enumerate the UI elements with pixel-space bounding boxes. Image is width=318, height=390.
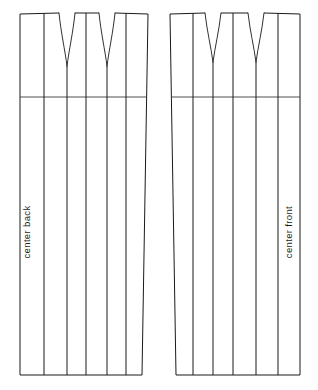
back-panel-seam-lines <box>44 13 126 375</box>
back-dart-2-left-leg <box>99 13 107 66</box>
front-top-segment-1 <box>170 13 205 14</box>
front-panel-group: center front <box>170 13 300 375</box>
front-dart-1-left-leg <box>205 13 213 62</box>
pattern-drawing-canvas: center back <box>0 0 318 390</box>
back-dart-1-left-leg <box>59 13 67 66</box>
front-panel-top-edge <box>170 13 300 14</box>
front-panel-darts <box>205 13 264 62</box>
back-top-segment-3 <box>115 13 148 14</box>
back-top-segment-1 <box>20 13 59 14</box>
front-dart-2-right-leg <box>256 13 264 62</box>
back-panel-top-edge <box>20 13 148 14</box>
back-dart-1-right-leg <box>67 13 75 66</box>
back-dart-2-right-leg <box>107 13 115 66</box>
front-dart-2-left-leg <box>248 13 256 62</box>
back-panel-darts <box>59 13 115 66</box>
center-back-label: center back <box>21 206 32 259</box>
back-side-seam-edge <box>142 14 148 375</box>
front-panel-seam-lines <box>193 13 278 375</box>
front-top-segment-3 <box>264 13 300 14</box>
front-side-seam-edge <box>170 14 176 375</box>
center-front-label: center front <box>283 206 294 258</box>
front-dart-1-right-leg <box>213 13 221 62</box>
pattern-sheet: center back <box>0 0 318 390</box>
back-panel-group: center back <box>20 13 148 375</box>
